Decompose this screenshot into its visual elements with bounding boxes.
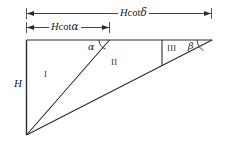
height-label: H bbox=[14, 78, 22, 89]
hcotalpha-arrow-right bbox=[102, 25, 109, 30]
region-label-three: III bbox=[167, 44, 176, 53]
geometry-figure: Hcotδ Hcotα H I II III α β bbox=[0, 0, 226, 152]
angle-label-alpha: α bbox=[88, 42, 94, 52]
hcotdelta-arrow-left bbox=[27, 11, 34, 16]
hcotdelta-arrow-right bbox=[204, 11, 211, 16]
dimension-label-hcotalpha: Hcotα bbox=[49, 21, 81, 33]
main-triangle bbox=[27, 40, 213, 135]
angle-label-beta: β bbox=[188, 41, 194, 51]
dimension-label-hcotdelta: Hcotδ bbox=[118, 7, 149, 19]
region-label-two: II bbox=[111, 58, 117, 67]
diagram-canvas bbox=[0, 0, 226, 152]
angle-arc-alpha bbox=[99, 40, 106, 49]
region-label-one: I bbox=[44, 70, 47, 79]
hypotenuse-edge bbox=[27, 40, 213, 135]
delta-symbol: δ bbox=[140, 6, 146, 18]
divider-ray-alpha bbox=[27, 40, 110, 135]
alpha-symbol-dimension: α bbox=[71, 20, 78, 32]
hcotalpha-arrow-left bbox=[27, 25, 34, 30]
